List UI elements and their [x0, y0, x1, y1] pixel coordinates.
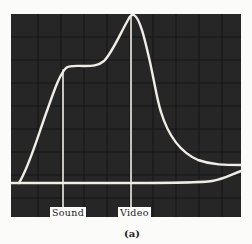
- figure-caption: (a): [124, 228, 140, 239]
- sound-marker-label: Sound: [50, 207, 86, 218]
- video-marker-label: Video: [118, 207, 151, 218]
